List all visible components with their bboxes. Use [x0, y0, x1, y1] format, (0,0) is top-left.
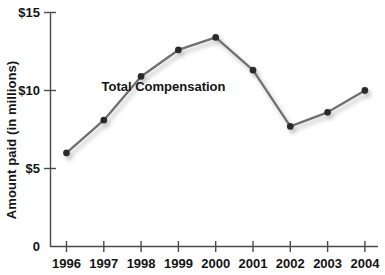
data-point-2000 [212, 34, 219, 41]
line-chart: Amount paid (in millions) $15 $10 $5 0 1… [0, 0, 385, 275]
y-tick-label-15: $15 [18, 5, 40, 20]
data-point-2002 [287, 123, 294, 130]
data-point-1996 [63, 150, 70, 157]
x-tick-label-1997: 1997 [89, 256, 118, 271]
x-tick-label-2001: 2001 [239, 256, 268, 271]
x-tick-label-1999: 1999 [164, 256, 193, 271]
x-tick-label-2000: 2000 [201, 256, 230, 271]
y-axis-title: Amount paid (in millions) [4, 61, 19, 220]
x-tick-label-2003: 2003 [313, 256, 342, 271]
x-tick-label-1996: 1996 [52, 256, 81, 271]
y-tick-label-0: 0 [33, 239, 40, 254]
data-point-2004 [362, 87, 369, 94]
y-tick-label-10: $10 [18, 83, 40, 98]
x-tick-label-1998: 1998 [127, 256, 156, 271]
data-point-1997 [100, 117, 107, 124]
y-tick-label-5: $5 [26, 161, 40, 176]
chart-background [0, 0, 385, 275]
series-annotation-label: Total Compensation [101, 79, 225, 94]
x-tick-label-2002: 2002 [276, 256, 305, 271]
chart-canvas: Amount paid (in millions) $15 $10 $5 0 1… [0, 0, 385, 275]
data-point-1999 [175, 47, 182, 54]
data-point-2003 [324, 109, 331, 116]
data-point-2001 [250, 67, 257, 74]
x-tick-label-2004: 2004 [350, 256, 380, 271]
